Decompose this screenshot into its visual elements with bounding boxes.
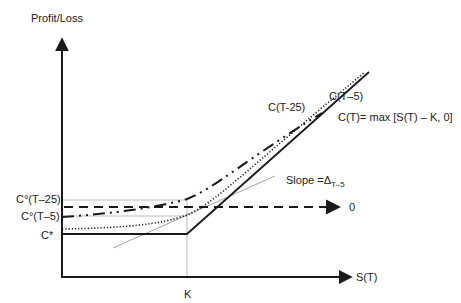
zero-label: 0 (349, 201, 355, 213)
curve-c-t5-label: C(T–5) (329, 90, 363, 102)
y-axis-label: Profit/Loss (31, 12, 83, 24)
option-payoff-diagram (0, 0, 461, 303)
delta-symbol: Δ (324, 174, 331, 186)
c-star-label: C* (41, 229, 53, 241)
slope-subscript: T–5 (331, 180, 345, 189)
slope-tangent-line (113, 176, 275, 248)
slope-label: Slope =ΔT–5 (286, 174, 345, 188)
strike-label: K (184, 288, 191, 300)
c0-t25-label: C°(T–25) (16, 193, 61, 205)
curve-c-t25 (62, 113, 322, 217)
slope-prefix: Slope = (286, 174, 324, 186)
c0-t5-label: C°(T–5) (21, 210, 60, 222)
payoff-curve-ct (62, 72, 369, 234)
curve-c-t5 (62, 72, 365, 229)
x-axis-label: S(T) (356, 271, 377, 283)
curve-ct-label: C(T)= max [S(T) – K, 0] (338, 111, 453, 123)
curve-c-t25-label: C(T-25) (268, 101, 305, 113)
